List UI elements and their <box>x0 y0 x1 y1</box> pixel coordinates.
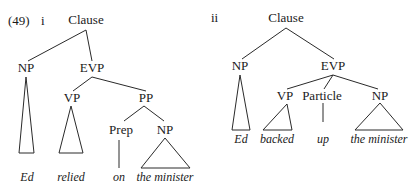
evp-np-triangle <box>355 103 403 130</box>
edge-evp-np <box>333 75 378 89</box>
vp-triangle <box>59 106 83 153</box>
node-vp: VP <box>64 90 81 105</box>
node-evp: EVP <box>80 60 105 75</box>
node-np: NP <box>232 58 249 73</box>
terminal-the-minister: the minister <box>351 132 408 146</box>
edge-pp-prep <box>124 106 144 121</box>
np-triangle <box>19 77 34 153</box>
tree-i: (49) i Clause NP EVP VP PP Prep NP Ed re… <box>8 12 194 184</box>
edge-clause-np <box>28 30 86 61</box>
node-vp: VP <box>277 88 294 103</box>
node-particle: Particle <box>302 88 342 103</box>
node-evp-np: NP <box>372 88 389 103</box>
edge-evp-vp <box>287 75 333 89</box>
tree-label-i: i <box>41 13 45 28</box>
terminal-relied: relied <box>57 170 86 184</box>
edge-clause-evp <box>86 30 92 61</box>
np-triangle <box>232 75 250 130</box>
tree-label-ii: ii <box>211 10 219 25</box>
terminal-ed: Ed <box>233 132 248 146</box>
example-number: (49) <box>8 13 30 28</box>
terminal-ed: Ed <box>19 170 34 184</box>
edge-pp-np <box>144 106 164 121</box>
edge-evp-pp <box>92 77 146 91</box>
edge-clause-evp <box>286 28 334 59</box>
terminal-on: on <box>113 170 125 184</box>
node-prep: Prep <box>109 122 133 137</box>
pp-np-triangle <box>141 138 190 168</box>
node-pp-np: NP <box>157 122 174 137</box>
node-np: NP <box>18 60 35 75</box>
node-clause: Clause <box>268 10 304 25</box>
tree-ii: ii Clause NP EVP VP Particle NP Ed backe… <box>211 10 408 146</box>
node-pp: PP <box>139 90 153 105</box>
terminal-the-minister: the minister <box>137 170 194 184</box>
node-evp: EVP <box>321 58 346 73</box>
terminal-up: up <box>317 132 329 146</box>
terminal-backed: backed <box>260 132 295 146</box>
syntax-tree-diagram: (49) i Clause NP EVP VP PP Prep NP Ed re… <box>0 0 414 191</box>
node-clause: Clause <box>68 12 104 27</box>
vp-triangle <box>263 104 292 130</box>
edge-clause-np <box>242 28 286 59</box>
edge-evp-vp <box>73 77 92 91</box>
